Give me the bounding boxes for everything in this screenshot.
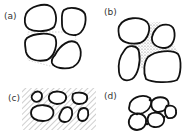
panel-d [129, 96, 176, 130]
panel-label-d: (d) [104, 92, 117, 101]
panel-label-a: (a) [4, 12, 17, 21]
panel-c [22, 88, 96, 130]
panel-b [118, 18, 180, 82]
panel-label-c: (c) [8, 94, 20, 103]
grain-packing-diagram [0, 0, 183, 140]
panel-label-b: (b) [104, 8, 117, 17]
panel-a [25, 5, 86, 69]
